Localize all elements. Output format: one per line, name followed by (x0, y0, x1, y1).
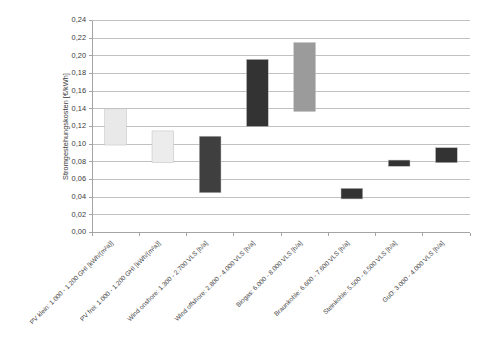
y-tick-label: 0,14 (72, 104, 86, 113)
range-bar (388, 160, 410, 166)
y-tick-label: 0,06 (72, 174, 86, 183)
range-bar (247, 59, 269, 126)
range-bar (152, 131, 174, 163)
chart-container: 0,000,020,040,060,080,100,120,140,160,18… (0, 0, 486, 347)
y-tick-label: 0,04 (72, 192, 86, 201)
y-tick-label: 0,10 (72, 139, 86, 148)
y-axis-title: Stromgestehungskosten [€/kWh] (61, 73, 70, 180)
y-tick-label: 0,00 (72, 227, 86, 236)
y-tick-label: 0,08 (72, 157, 86, 166)
y-tick-label: 0,16 (72, 86, 86, 95)
range-bar (294, 43, 316, 112)
range-bar (436, 148, 458, 163)
range-bar (341, 188, 363, 199)
y-tick-label: 0,18 (72, 68, 86, 77)
y-tick-label: 0,12 (72, 121, 86, 130)
range-bar (199, 136, 221, 193)
y-tick-label: 0,22 (72, 33, 86, 42)
floating-bar-chart: 0,000,020,040,060,080,100,120,140,160,18… (0, 0, 486, 347)
range-bar (105, 109, 127, 145)
y-tick-label: 0,02 (72, 210, 86, 219)
y-tick-label: 0,20 (72, 51, 86, 60)
y-tick-label: 0,24 (72, 15, 86, 24)
